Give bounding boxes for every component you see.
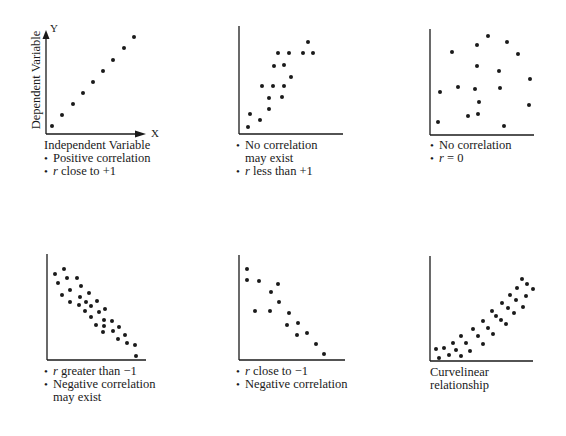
data-point xyxy=(494,314,498,318)
scatter-panel-positive xyxy=(43,30,147,138)
data-point xyxy=(481,342,485,346)
data-point xyxy=(271,84,275,88)
data-point xyxy=(512,311,516,315)
data-point xyxy=(475,43,479,47)
data-point xyxy=(506,306,510,310)
caption-positive: Independent VariablePositive correlation… xyxy=(44,139,151,178)
data-point xyxy=(476,112,480,116)
data-point xyxy=(269,290,273,294)
data-point xyxy=(520,277,524,281)
data-point xyxy=(248,112,252,116)
data-point xyxy=(514,298,518,302)
data-point xyxy=(134,354,138,358)
x-axis-letter: X xyxy=(151,127,159,139)
data-point xyxy=(497,69,501,73)
data-point xyxy=(505,40,509,44)
data-point xyxy=(89,304,93,308)
r-symbol: r xyxy=(53,164,58,178)
y-arrow-icon xyxy=(43,30,50,39)
data-point xyxy=(508,293,512,297)
data-point xyxy=(110,319,114,323)
data-point xyxy=(306,40,310,44)
data-point xyxy=(246,125,250,129)
data-point xyxy=(481,319,485,323)
scatter-panel-curvilinear xyxy=(430,256,535,361)
data-point xyxy=(287,311,291,315)
data-point xyxy=(498,86,502,90)
data-point xyxy=(75,276,79,280)
caption-weak-positive: No correlationmay existr less than +1 xyxy=(236,139,318,178)
data-point xyxy=(56,281,60,285)
data-point xyxy=(60,293,64,297)
data-point xyxy=(491,332,495,336)
data-point xyxy=(447,353,451,357)
data-point xyxy=(276,282,280,286)
data-point xyxy=(502,124,506,128)
data-point xyxy=(94,323,98,327)
data-point xyxy=(268,309,272,313)
data-point xyxy=(322,352,326,356)
data-point xyxy=(101,69,105,73)
data-point xyxy=(258,118,262,122)
data-point xyxy=(527,103,531,107)
data-point xyxy=(515,286,519,290)
data-point xyxy=(267,96,271,100)
data-point xyxy=(84,300,88,304)
data-point xyxy=(282,63,286,67)
data-point xyxy=(103,307,107,311)
data-point xyxy=(471,327,475,331)
data-point xyxy=(53,272,57,276)
data-point xyxy=(116,337,120,341)
data-point xyxy=(77,303,81,307)
data-point xyxy=(123,333,127,337)
panels-group xyxy=(43,26,536,361)
data-point xyxy=(253,309,257,313)
data-point xyxy=(78,295,82,299)
data-point xyxy=(531,287,535,291)
data-point xyxy=(289,75,293,79)
data-point xyxy=(272,64,276,68)
data-point xyxy=(97,310,101,314)
data-point xyxy=(62,267,66,271)
data-point xyxy=(454,348,458,352)
y-axis-title: Dependent Variable xyxy=(29,31,44,130)
data-point xyxy=(50,124,54,128)
data-point xyxy=(287,51,291,55)
scatter-panel-weak-positive xyxy=(239,26,343,134)
data-point xyxy=(89,315,93,319)
data-point xyxy=(101,330,105,334)
data-point xyxy=(516,52,520,56)
data-point xyxy=(436,120,440,124)
data-point xyxy=(437,356,441,360)
data-point xyxy=(499,318,503,322)
data-point xyxy=(301,51,305,55)
caption-line: relationship xyxy=(430,379,489,392)
data-point xyxy=(102,318,106,322)
data-point xyxy=(456,85,460,89)
r-symbol: r xyxy=(53,364,58,378)
data-point xyxy=(280,95,284,99)
data-point xyxy=(111,329,115,333)
data-point xyxy=(117,325,121,329)
data-point xyxy=(83,309,87,313)
data-point xyxy=(122,46,126,50)
caption-weak-negative: r greater than −1Negative correlationmay… xyxy=(44,365,155,404)
data-point xyxy=(468,349,472,353)
data-point xyxy=(305,331,309,335)
caption-no-correlation: No correlationr = 0 xyxy=(430,139,512,165)
data-point xyxy=(477,100,481,104)
data-point xyxy=(486,34,490,38)
data-point xyxy=(65,276,69,280)
data-point xyxy=(528,77,532,81)
scatter-panel-strong-negative xyxy=(239,255,345,360)
data-point xyxy=(133,343,137,347)
data-point xyxy=(91,80,95,84)
data-point xyxy=(111,58,115,62)
data-point xyxy=(466,114,470,118)
r-symbol: r xyxy=(439,151,444,165)
data-point xyxy=(486,326,490,330)
data-point xyxy=(450,50,454,54)
data-point xyxy=(451,341,455,345)
data-point xyxy=(500,301,504,305)
data-point xyxy=(525,282,529,286)
